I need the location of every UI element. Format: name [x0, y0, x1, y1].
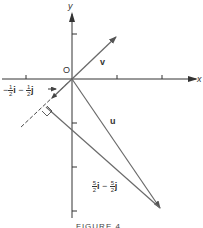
vector-v-label: v [100, 58, 105, 67]
vector-u-label: u [110, 117, 116, 126]
x-axis-label: x [197, 75, 202, 84]
figure-caption: FIGURE 4 [76, 222, 121, 228]
vector-v [72, 37, 116, 79]
y-axis [69, 12, 77, 218]
projection-label: −12i − 12j [3, 84, 34, 97]
x-axis [2, 75, 198, 82]
difference-label: 52i − 52j [92, 180, 117, 193]
origin-label: O [63, 66, 70, 75]
vector-diagram [0, 0, 203, 228]
y-axis-label: y [68, 2, 73, 11]
